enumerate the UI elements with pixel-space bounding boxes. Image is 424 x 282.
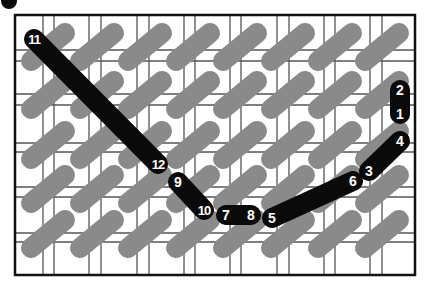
node-11: 11 [25,30,44,49]
node-label: 1 [396,106,404,122]
node-9: 9 [169,173,188,192]
node-label: 6 [349,173,357,189]
node-7: 7 [217,206,236,225]
node-label: 5 [268,210,276,226]
node-1: 1 [391,105,410,124]
node-6: 6 [344,172,363,191]
node-4: 4 [391,132,410,151]
node-label: 9 [174,174,182,190]
node-label: 11 [28,32,41,47]
node-5: 5 [263,209,282,228]
node-12: 12 [149,155,168,174]
node-10: 10 [195,201,214,220]
node-label: 7 [222,207,230,223]
node-label: 4 [396,133,404,149]
node-label: 3 [365,163,373,179]
node-8: 8 [242,206,261,225]
node-label: 10 [198,203,211,218]
node-3: 3 [360,162,379,181]
node-label: 12 [152,157,165,172]
node-label: 8 [247,207,255,223]
node-label: 2 [396,82,404,98]
stitch-diagram: 123456789101112 [0,0,424,282]
node-2: 2 [391,81,410,100]
